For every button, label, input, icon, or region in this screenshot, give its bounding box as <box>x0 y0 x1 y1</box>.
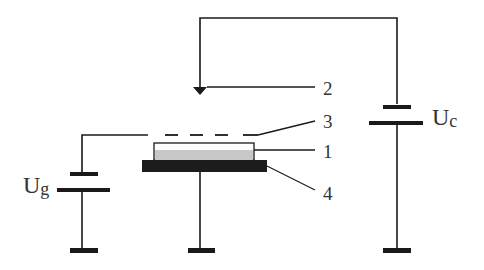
leader-line-3 <box>258 121 315 135</box>
uc-short-plate <box>383 105 411 109</box>
label-2: 2 <box>323 78 333 99</box>
label-ug-sub: g <box>40 179 49 199</box>
collector-circuit <box>200 18 397 250</box>
leader-line-4 <box>267 166 315 190</box>
label-1: 1 <box>323 141 333 162</box>
label-ug-main: U <box>23 172 40 198</box>
ug-upper-wire <box>82 135 148 173</box>
probe-arrow-icon <box>193 87 207 95</box>
label-4: 4 <box>323 183 333 204</box>
ground-center-icon <box>188 248 215 253</box>
top-wire <box>200 18 397 104</box>
label-uc-main: U <box>432 104 449 130</box>
ug-long-plate <box>57 188 110 192</box>
ground-left-icon <box>70 248 98 253</box>
ug-short-plate <box>70 172 98 176</box>
circuit-diagram: 2 3 1 4 Uc Ug <box>0 0 484 270</box>
label-uc: Uc <box>432 104 457 131</box>
ground-right-icon <box>383 248 411 253</box>
sample-film-layer <box>155 150 253 160</box>
uc-long-plate <box>369 121 423 125</box>
label-3: 3 <box>323 111 333 132</box>
label-ug: Ug <box>23 172 49 199</box>
label-uc-sub: c <box>449 111 457 131</box>
grid-circuit <box>82 135 148 250</box>
substrate-holder <box>142 160 267 172</box>
